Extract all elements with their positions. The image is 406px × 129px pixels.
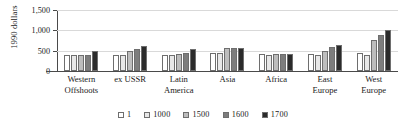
y-axis-tick-label: 0: [0, 67, 50, 76]
bar: [224, 48, 230, 71]
bar: [315, 55, 321, 71]
legend-label: 1000: [153, 110, 170, 119]
bar: [280, 54, 286, 71]
y-axis-tick-label: 1,000: [0, 26, 50, 35]
y-axis-tick-mark: [53, 71, 57, 72]
bar: [190, 49, 196, 71]
bar: [113, 55, 119, 71]
legend-swatch-icon: [118, 112, 124, 118]
y-axis-tick-label: 500: [0, 46, 50, 55]
bar: [336, 45, 342, 71]
bar-group: [57, 10, 106, 71]
bar: [64, 55, 70, 71]
legend-label: 1700: [271, 110, 288, 119]
bar: [85, 55, 91, 71]
bar: [364, 55, 370, 71]
chart-legend: 11000150016001700: [0, 110, 406, 119]
bar-group: [252, 10, 301, 71]
bar: [385, 30, 391, 71]
bar: [231, 48, 237, 71]
legend-swatch-icon: [144, 112, 150, 118]
x-axis-category-label: Latin America: [154, 74, 203, 95]
bar: [71, 55, 77, 71]
bar-group: [154, 10, 203, 71]
x-axis-category-label: Western Offshoots: [57, 74, 106, 95]
bar: [308, 54, 314, 71]
legend-swatch-icon: [183, 112, 189, 118]
x-axis-line: [46, 71, 398, 72]
x-axis-category-label: ex USSR: [106, 74, 155, 85]
bar: [259, 54, 265, 71]
x-axis-category-label: Asia: [203, 74, 252, 85]
bar: [371, 40, 377, 71]
legend-label: 1: [127, 110, 131, 119]
legend-item[interactable]: 1000: [144, 110, 170, 119]
bar: [217, 53, 223, 71]
legend-item[interactable]: 1500: [183, 110, 209, 119]
bar-chart: 1990 dollars 05001,0001,500 110001500160…: [0, 0, 406, 129]
bar: [329, 47, 335, 71]
legend-swatch-icon: [223, 112, 229, 118]
bar: [162, 55, 168, 71]
bar-group: [203, 10, 252, 71]
y-axis-tick-labels: 05001,0001,500: [0, 10, 53, 72]
plot-area: [57, 10, 398, 71]
bar-group: [106, 10, 155, 71]
legend-item[interactable]: 1: [118, 110, 131, 119]
legend-label: 1600: [232, 110, 249, 119]
legend-item[interactable]: 1700: [262, 110, 288, 119]
bar: [127, 51, 133, 71]
bar-group: [349, 10, 398, 71]
bar: [266, 55, 272, 71]
bar: [134, 49, 140, 71]
x-axis-category-label: Africa: [252, 74, 301, 85]
bar: [273, 54, 279, 71]
bar: [287, 54, 293, 71]
bar: [169, 55, 175, 71]
legend-label: 1500: [192, 110, 209, 119]
bar: [176, 54, 182, 71]
bar: [357, 53, 363, 71]
x-axis-category-label: West Europe: [349, 74, 398, 95]
bar: [238, 48, 244, 71]
bar: [322, 51, 328, 71]
legend-item[interactable]: 1600: [223, 110, 249, 119]
bar-group: [301, 10, 350, 71]
bar: [78, 55, 84, 71]
y-axis-tick-label: 1,500: [0, 6, 50, 15]
bar: [92, 51, 98, 71]
bar: [183, 53, 189, 71]
bar: [378, 35, 384, 71]
x-axis-category-label: East Europe: [301, 74, 350, 95]
bar: [120, 55, 126, 71]
bar: [141, 46, 147, 71]
bar: [210, 53, 216, 71]
legend-swatch-icon: [262, 112, 268, 118]
